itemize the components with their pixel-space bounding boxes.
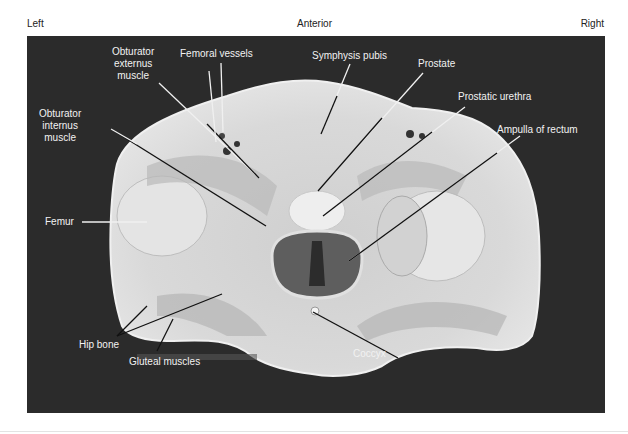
orientation-anterior-label: Anterior	[297, 18, 332, 29]
prostate-shape	[289, 191, 345, 231]
bottom-divider	[0, 431, 628, 432]
label-femur: Femur	[45, 216, 74, 228]
label-line: Obturator	[39, 108, 81, 120]
label-line: externus	[112, 58, 154, 70]
label-coccyx: Coccyx	[353, 348, 386, 360]
label-prostatic-urethra: Prostatic urethra	[458, 91, 531, 103]
label-symphysis-pubis: Symphysis pubis	[312, 50, 387, 62]
label-line: muscle	[39, 132, 81, 144]
label-line: Obturator	[112, 46, 154, 58]
femoral-vessel-right-a	[406, 130, 414, 138]
orientation-right-label: Right	[581, 18, 604, 29]
label-gluteal-muscles: Gluteal muscles	[129, 356, 200, 368]
pelvis-cross-section-figure: Obturator externus muscle Obturator inte…	[27, 36, 605, 413]
label-ampulla-of-rectum: Ampulla of rectum	[497, 124, 578, 136]
label-obturator-internus: Obturator internus muscle	[39, 108, 81, 144]
orientation-left-label: Left	[27, 18, 44, 29]
label-femoral-vessels: Femoral vessels	[180, 48, 253, 60]
label-obturator-externus: Obturator externus muscle	[112, 46, 154, 82]
label-prostate: Prostate	[418, 58, 455, 70]
left-femur-shape	[117, 176, 207, 256]
label-line: muscle	[112, 70, 154, 82]
label-hip-bone: Hip bone	[79, 339, 119, 351]
label-line: internus	[39, 120, 81, 132]
